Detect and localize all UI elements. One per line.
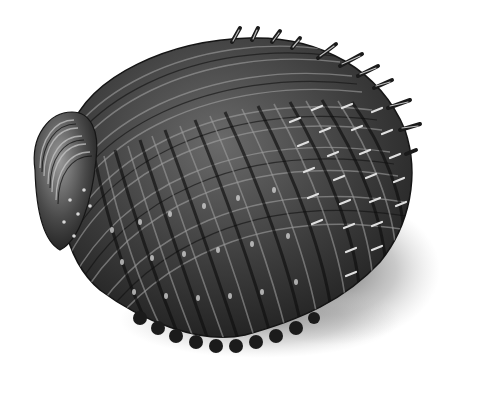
illustration-canvas: [0, 0, 480, 397]
shell-illustration: [0, 0, 480, 397]
